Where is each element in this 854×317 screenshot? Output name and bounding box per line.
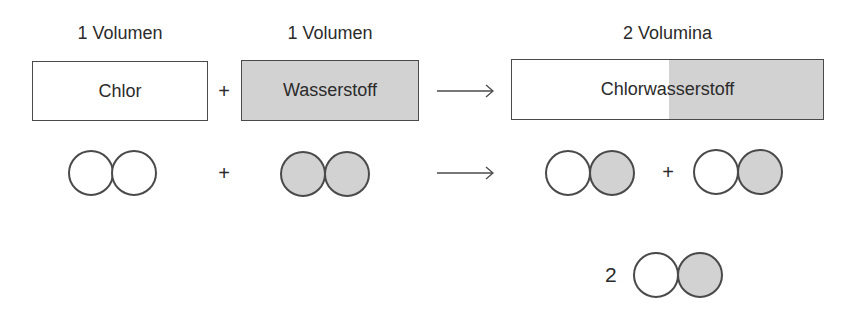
molecule-hcl-1 [546,151,634,195]
atom-wasserstoff [678,253,722,297]
atom-chlor [69,151,113,195]
plus-sign-reactants: + [214,163,234,183]
molecule-hcl-2 [694,150,782,194]
atom-wasserstoff [590,151,634,195]
molecule-cl2 [69,151,156,195]
arrow-icon-molecules [437,167,493,179]
diagram-graphics [0,0,854,317]
molecule-h2 [281,152,369,196]
molecule-2hcl [634,253,722,297]
atom-chlor [112,151,156,195]
atom-wasserstoff [325,152,369,196]
atom-chlor [546,151,590,195]
atom-chlor [694,150,738,194]
box-chlorwasserstoff: Chlorwasserstoff [511,59,824,120]
atom-wasserstoff [738,150,782,194]
box-chlorwasserstoff-label: Chlorwasserstoff [601,79,735,100]
atom-chlor [634,253,678,297]
coefficient-two: 2 [605,264,617,286]
arrow-icon-volumes [437,85,493,97]
atom-wasserstoff [281,152,325,196]
plus-sign-products: + [658,162,678,182]
